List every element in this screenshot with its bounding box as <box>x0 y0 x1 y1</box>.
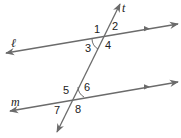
angle-7-label: 7 <box>54 104 60 116</box>
parallel-mark-icon <box>144 26 150 31</box>
angle-5-label: 5 <box>63 84 69 96</box>
angle-2-label: 2 <box>112 20 118 32</box>
angle-6-label: 6 <box>84 81 90 93</box>
line-t <box>57 4 120 132</box>
diagram-canvas: t ℓ m 1 2 3 4 5 6 7 8 <box>0 0 181 138</box>
line-t-label: t <box>122 1 126 15</box>
angle-4-label: 4 <box>105 39 111 51</box>
angle-3-arc-icon <box>92 39 98 49</box>
angle-8-label: 8 <box>75 103 81 115</box>
angle-3-label: 3 <box>85 42 91 54</box>
angle-1-label: 1 <box>94 23 100 35</box>
parallel-mark-icon <box>144 84 150 89</box>
line-m-label: m <box>11 95 20 109</box>
line-l <box>6 24 178 53</box>
line-m <box>10 82 178 111</box>
line-l-label: ℓ <box>11 36 16 50</box>
